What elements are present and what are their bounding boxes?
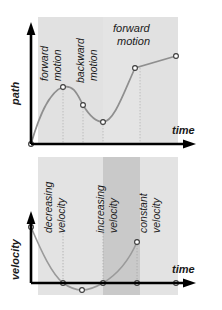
bottom-annotation-velocity-2: velocity [107, 197, 119, 233]
top-annotation-motion-1: motion [51, 49, 63, 81]
top-x-axis-label: time [172, 124, 195, 136]
data-point-marker [133, 66, 138, 71]
data-point-marker [135, 240, 140, 245]
top-y-axis-label: path [9, 82, 21, 107]
figure-svg: path time forward motion backward motion… [0, 0, 222, 310]
top-annotation-motion-3: motion [117, 35, 150, 47]
bottom-annotation-velocity-1: velocity [55, 197, 67, 233]
top-annotation-backward: backward [74, 37, 86, 83]
top-chart-group: path time forward motion backward motion… [9, 17, 196, 149]
top-annotation-forward-1: forward [38, 45, 50, 81]
top-y-axis [27, 22, 36, 144]
bottom-chart-group: velocity time decreasing velocity increa… [9, 157, 196, 295]
bottom-x-axis-label: time [172, 263, 195, 275]
bottom-y-axis [27, 211, 36, 283]
bottom-y-axis-label: velocity [9, 238, 21, 280]
data-point-marker [101, 120, 106, 125]
data-point-marker [81, 103, 86, 108]
top-annotation-forward-2: forward [113, 22, 151, 34]
bottom-annotation-velocity-3: velocity [150, 197, 162, 233]
bottom-annotation-increasing: increasing [94, 185, 106, 233]
motion-graphs-figure: path time forward motion backward motion… [0, 0, 222, 310]
data-point-marker [174, 54, 179, 59]
data-point-marker [80, 288, 85, 293]
bottom-annotation-decreasing: decreasing [42, 181, 54, 233]
bottom-annotation-constant: constant [137, 192, 149, 233]
data-point-marker [61, 85, 66, 90]
top-annotation-motion-2: motion [87, 49, 99, 81]
